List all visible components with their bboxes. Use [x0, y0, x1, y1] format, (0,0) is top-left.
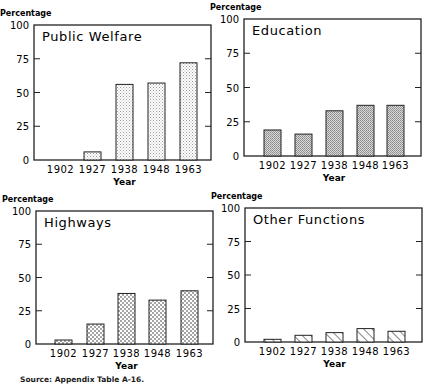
bar-1963: [388, 331, 405, 342]
chart-panel-highways: Percentage0255075100Highways190219271938…: [2, 195, 213, 371]
charts-canvas: Percentage0255075100Public Welfare190219…: [0, 0, 436, 390]
y-tick-label: 50: [227, 270, 240, 281]
x-tick-label: 1948: [144, 348, 171, 359]
x-tick-label: 1948: [143, 164, 170, 175]
x-tick-label: 1938: [321, 160, 348, 171]
bar-1938: [118, 293, 135, 344]
y-tick-label: 25: [227, 304, 240, 315]
source-note: Source: Appendix Table A-16.: [20, 375, 144, 384]
y-tick-label: 75: [16, 54, 29, 65]
bar-1927: [295, 134, 312, 156]
y-tick-label: 75: [227, 237, 240, 248]
x-tick-label: 1902: [50, 348, 77, 359]
x-tick-label: 1902: [47, 164, 74, 175]
y-tick-label: 25: [18, 306, 31, 317]
chart-title: Highways: [44, 215, 112, 230]
x-axis-title: Year: [112, 177, 136, 187]
x-tick-label: 1902: [259, 346, 286, 357]
y-tick-label: 75: [18, 239, 31, 250]
y-tick-label: 50: [226, 83, 239, 94]
x-tick-label: 1948: [352, 346, 379, 357]
y-tick-label: 100: [12, 206, 31, 217]
bar-1927: [87, 324, 104, 344]
bar-1963: [181, 291, 198, 344]
y-axis-label: Percentage: [0, 9, 52, 18]
x-tick-label: 1927: [79, 164, 106, 175]
chart-title: Other Functions: [253, 212, 365, 227]
x-tick-label: 1963: [383, 346, 410, 357]
y-tick-label: 75: [226, 48, 239, 59]
y-tick-label: 100: [220, 14, 239, 25]
x-axis-title: Year: [322, 359, 346, 369]
bar-1902: [55, 340, 72, 344]
x-tick-label: 1927: [82, 348, 109, 359]
bar-1902: [264, 130, 281, 156]
bar-1938: [326, 111, 343, 156]
x-tick-label: 1938: [113, 348, 140, 359]
chart-title: Education: [252, 23, 322, 38]
y-axis-label: Percentage: [2, 195, 54, 204]
y-tick-label: 50: [16, 88, 29, 99]
chart-panel-other-functions: Percentage0255075100Other Functions19021…: [211, 192, 422, 369]
chart-title: Public Welfare: [42, 29, 142, 44]
x-tick-label: 1938: [321, 346, 348, 357]
bar-1938: [326, 333, 343, 342]
x-tick-label: 1902: [259, 160, 286, 171]
x-tick-label: 1938: [111, 164, 138, 175]
y-tick-label: 50: [18, 273, 31, 284]
bar-1963: [387, 105, 404, 156]
y-tick-label: 0: [233, 151, 239, 162]
bar-1948: [357, 105, 374, 156]
x-tick-label: 1927: [290, 346, 317, 357]
y-tick-label: 0: [23, 155, 29, 166]
x-axis-title: Year: [114, 361, 138, 371]
x-tick-label: 1963: [382, 160, 409, 171]
y-axis-label: Percentage: [211, 192, 263, 201]
y-axis-label: Percentage: [210, 3, 262, 12]
bar-1902: [264, 339, 281, 342]
bar-1948: [148, 83, 165, 160]
bar-1948: [357, 329, 374, 342]
x-axis-title: Year: [322, 173, 346, 183]
chart-panel-public-welfare: Percentage0255075100Public Welfare190219…: [0, 9, 211, 187]
y-tick-label: 25: [16, 121, 29, 132]
x-tick-label: 1963: [176, 348, 203, 359]
bar-1938: [116, 84, 133, 160]
bar-1927: [84, 152, 101, 160]
y-tick-label: 0: [25, 339, 31, 350]
y-tick-label: 100: [10, 20, 29, 31]
y-tick-label: 25: [226, 117, 239, 128]
x-tick-label: 1963: [175, 164, 202, 175]
chart-panel-education: Percentage0255075100Education19021927193…: [210, 3, 421, 183]
y-tick-label: 0: [234, 337, 240, 348]
x-tick-label: 1927: [290, 160, 317, 171]
bar-1948: [149, 300, 166, 344]
plot-frame: [245, 208, 422, 342]
bar-1963: [180, 63, 197, 160]
x-tick-label: 1948: [352, 160, 379, 171]
y-tick-label: 100: [221, 203, 240, 214]
bar-1927: [295, 335, 312, 342]
